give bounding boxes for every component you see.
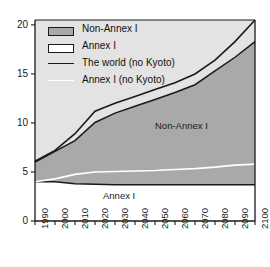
area-label-annex-i: Annex I bbox=[103, 190, 135, 201]
legend-label-annex-i-no-kyoto: Annex I (no Kyoto) bbox=[82, 74, 165, 85]
y-axis-tick-label: 15 bbox=[4, 68, 28, 79]
legend-swatch-annex-i bbox=[48, 44, 74, 53]
legend-swatch-non-annex-i bbox=[48, 27, 74, 36]
legend-line-the-world-no-kyoto bbox=[48, 63, 74, 64]
area-label-non-annex-i: Non-Annex I bbox=[155, 120, 208, 131]
x-axis-tick-label: 2030 bbox=[119, 208, 130, 229]
x-axis-tick-label: 2100 bbox=[259, 208, 270, 229]
x-axis-tick-label: 2090 bbox=[239, 208, 250, 229]
y-axis-tick-label: 10 bbox=[4, 117, 28, 128]
legend-line-annex-i-no-kyoto bbox=[48, 80, 74, 81]
x-axis-tick-label: 2070 bbox=[199, 208, 210, 229]
x-axis-tick-label: 2080 bbox=[219, 208, 230, 229]
x-axis-tick-label: 2050 bbox=[159, 208, 170, 229]
y-axis-tick-label: 0 bbox=[4, 215, 28, 226]
y-axis-tick-label: 5 bbox=[4, 166, 28, 177]
x-axis-tick-label: 2060 bbox=[179, 208, 190, 229]
x-axis-tick-label: 2010 bbox=[79, 208, 90, 229]
x-axis-tick-label: 2040 bbox=[139, 208, 150, 229]
x-axis-tick-label: 2000 bbox=[59, 208, 70, 229]
x-axis-tick-label: 2020 bbox=[99, 208, 110, 229]
legend-label-non-annex-i: Non-Annex I bbox=[82, 23, 138, 34]
chart-figure: 05101520 1990200020102020203020402050206… bbox=[0, 0, 270, 267]
x-axis-tick-label: 1990 bbox=[39, 208, 50, 229]
legend-label-annex-i: Annex I bbox=[82, 40, 116, 51]
y-axis-tick-label: 20 bbox=[4, 19, 28, 30]
legend-label-the-world-no-kyoto: The world (no Kyoto) bbox=[82, 57, 175, 68]
